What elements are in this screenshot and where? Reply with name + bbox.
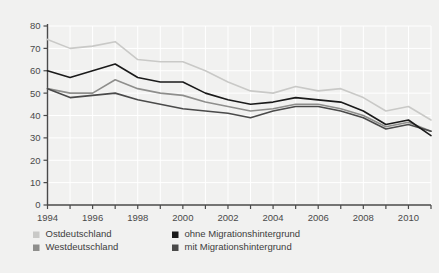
- legend-label: Ostdeutschland: [46, 228, 112, 239]
- y-tick-label: 70: [30, 43, 41, 54]
- line-chart: 01020304050607080 1994199619982000200220…: [0, 0, 439, 273]
- x-tick-label: 2002: [217, 212, 238, 223]
- y-tick-label: 0: [35, 199, 40, 210]
- legend-label: Westdeutschland: [46, 241, 119, 252]
- chart-page: 01020304050607080 1994199619982000200220…: [0, 0, 439, 273]
- x-tick-label: 1996: [82, 212, 103, 223]
- y-tick-label: 60: [30, 65, 41, 76]
- y-tick-label: 20: [30, 155, 41, 166]
- y-tick-label: 40: [30, 110, 41, 121]
- x-tick-label: 2006: [308, 212, 329, 223]
- x-tick-label: 2004: [263, 212, 284, 223]
- x-tick-label: 2010: [398, 212, 419, 223]
- x-tick-label: 1998: [127, 212, 148, 223]
- legend-swatch: [172, 245, 179, 252]
- legend-label: mit Migrationshintergrund: [185, 241, 292, 252]
- legend-label: ohne Migrationshintergrund: [185, 228, 301, 239]
- y-tick-label: 80: [30, 20, 41, 31]
- legend-swatch: [33, 245, 40, 252]
- x-tick-label: 1994: [37, 212, 58, 223]
- legend-swatch: [33, 232, 40, 239]
- x-tick-label: 2008: [353, 212, 374, 223]
- legend-swatch: [172, 232, 179, 239]
- y-tick-label: 10: [30, 177, 41, 188]
- chart-svg: 01020304050607080 1994199619982000200220…: [0, 0, 439, 273]
- y-tick-label: 50: [30, 88, 41, 99]
- x-tick-label: 2000: [172, 212, 193, 223]
- y-tick-label: 30: [30, 132, 41, 143]
